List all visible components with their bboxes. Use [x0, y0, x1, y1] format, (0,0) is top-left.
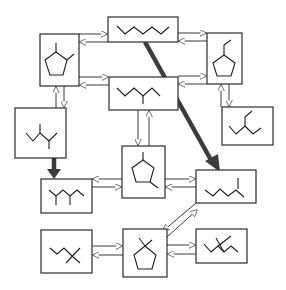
node-e-2-4-dimethylpentane — [15, 108, 66, 158]
node-f-3-ethylpentane — [222, 107, 273, 145]
edge-b-c — [178, 33, 207, 41]
edge-g-h — [92, 179, 122, 187]
node-l-3-3-dimethylpentane — [196, 229, 247, 263]
node-i-2-methylhexane — [196, 170, 256, 203]
node-j-2-2-dimethylpentane — [41, 230, 92, 273]
node-b-n-heptane — [108, 17, 178, 42]
edge-i-k — [163, 203, 197, 237]
edge-c-f — [221, 84, 229, 107]
node-g-1-3-dimethylcyclopentane — [122, 146, 165, 198]
major-arrow-e-to-h — [47, 158, 61, 179]
edge-g-i — [165, 179, 196, 187]
node-h-branched-alkane — [41, 179, 92, 213]
edge-k-l — [167, 245, 196, 254]
node-a-1-2-dimethylcyclopentane — [40, 34, 79, 86]
node-c-ethylcyclopentane — [207, 33, 242, 84]
node-k-1-1-dimethylcyclopentane — [123, 229, 167, 277]
edge-a-e — [56, 86, 64, 108]
edge-d-c — [178, 76, 207, 84]
reaction-network-diagram — [0, 0, 286, 290]
edge-d-g — [138, 110, 149, 146]
edge-j-k — [92, 246, 123, 255]
node-d-3-methylhexane — [109, 77, 178, 110]
edge-a-b — [79, 34, 108, 42]
edge-a-d — [79, 77, 109, 85]
